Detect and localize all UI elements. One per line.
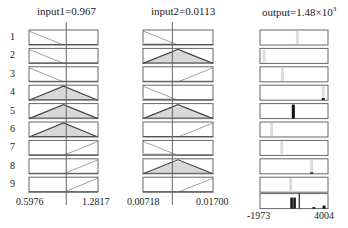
output-mf-box	[260, 85, 328, 100]
input-mf-box	[29, 177, 98, 192]
input-mf-box	[143, 177, 213, 192]
output-max-label: 4004	[314, 210, 334, 221]
output-fired-bar	[292, 105, 295, 119]
output-mf-box	[260, 177, 328, 192]
input-mf-box	[143, 67, 213, 82]
input-mf-box	[29, 67, 98, 82]
input-mf-box	[29, 140, 98, 155]
output-mf-box	[260, 140, 328, 155]
input2-min-label: 0.00718	[127, 196, 160, 207]
input2-max-label: 0.01700	[196, 196, 229, 207]
output-mf-box	[260, 159, 328, 174]
aggregate-bar	[312, 207, 315, 209]
aggregate-bar	[290, 198, 293, 209]
input1-min-label: 0.5976	[16, 196, 44, 207]
input1-max-label: 1.2817	[82, 196, 110, 207]
input-mf-box	[29, 30, 98, 45]
rule-viewer-plot[interactable]	[0, 0, 348, 228]
aggregate-bar	[293, 198, 296, 209]
aggregate-bar	[323, 206, 326, 209]
input-mf-box	[29, 159, 98, 174]
output-fired-bar	[310, 172, 313, 173]
output-mf-box	[260, 67, 328, 82]
output-mf-box	[260, 30, 328, 45]
output-fired-bar	[322, 98, 325, 100]
input-mf-box	[29, 48, 98, 63]
output-mf-box	[260, 48, 328, 63]
output-min-label: -1973	[247, 210, 270, 221]
input-mf-box	[143, 122, 213, 137]
